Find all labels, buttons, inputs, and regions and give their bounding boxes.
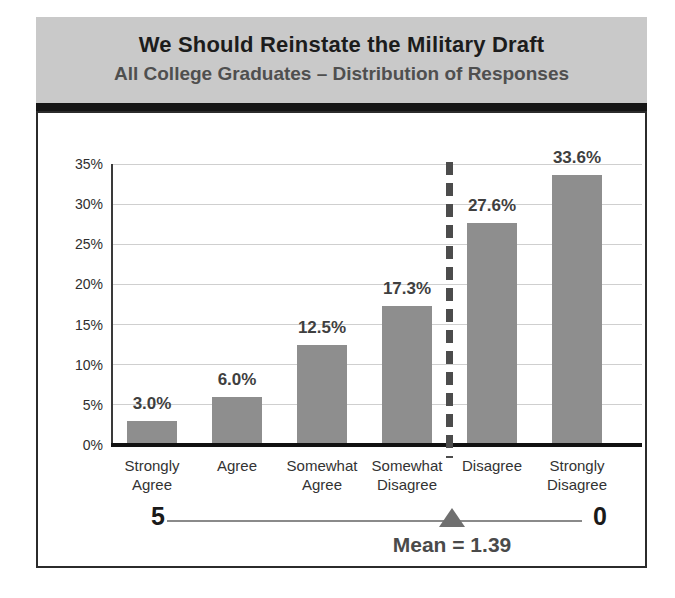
ytick-label: 35% [59,155,103,173]
header-separator-bar [36,103,647,111]
bar [212,397,262,445]
chart-header: We Should Reinstate the Military Draft A… [36,17,647,103]
bar-value-label: 33.6% [532,148,622,168]
mean-divider-dashed-line [446,162,453,458]
category-label: Somewhat Disagree [361,457,453,495]
bar [127,421,177,445]
bar [297,345,347,445]
ytick-label: 10% [59,356,103,374]
category-label: Agree [191,457,283,476]
ytick-label: 20% [59,275,103,293]
category-label: Disagree [446,457,538,476]
bar-value-label: 6.0% [192,370,282,390]
chart-panel: 0%5%10%15%20%25%30%35%3.0%Strongly Agree… [36,111,647,568]
ytick-label: 0% [59,436,103,454]
plot-area: 0%5%10%15%20%25%30%35%3.0%Strongly Agree… [113,164,642,445]
scale-right-label: 0 [580,502,620,531]
bar-value-label: 27.6% [447,196,537,216]
chart-subtitle: All College Graduates – Distribution of … [36,63,647,85]
category-label: Strongly Agree [106,457,198,495]
mean-label: Mean = 1.39 [352,533,552,557]
scale-left-label: 5 [138,502,178,531]
ytick-label: 30% [59,195,103,213]
category-label: Somewhat Agree [276,457,368,495]
ytick-label: 25% [59,235,103,253]
mean-marker-triangle [439,508,465,527]
bar-value-label: 3.0% [107,394,197,414]
bar-value-label: 17.3% [362,279,452,299]
bar [382,306,432,445]
bar-value-label: 12.5% [277,318,367,338]
bar [552,175,602,445]
chart-title: We Should Reinstate the Military Draft [36,32,647,58]
page: We Should Reinstate the Military Draft A… [0,0,675,598]
ytick-label: 15% [59,316,103,334]
x-axis-line [111,443,642,447]
category-label: Strongly Disagree [531,457,623,495]
bar [467,223,517,445]
ytick-label: 5% [59,396,103,414]
scale-line [167,520,582,522]
